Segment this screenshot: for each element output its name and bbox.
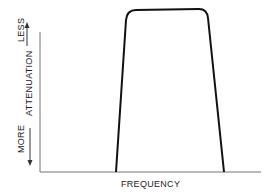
more-label-group: MORE <box>16 125 33 166</box>
y-axis-label: ATTENUATION <box>24 51 34 116</box>
less-label-group: LESS <box>16 18 30 46</box>
x-axis-label: FREQUENCY <box>121 179 180 189</box>
bandpass-diagram: LESS ATTENUATION MORE FREQUENCY <box>0 0 276 194</box>
down-arrow-icon <box>28 160 33 166</box>
response-curve <box>116 9 224 172</box>
less-label: LESS <box>16 18 26 42</box>
more-label: MORE <box>16 125 26 153</box>
